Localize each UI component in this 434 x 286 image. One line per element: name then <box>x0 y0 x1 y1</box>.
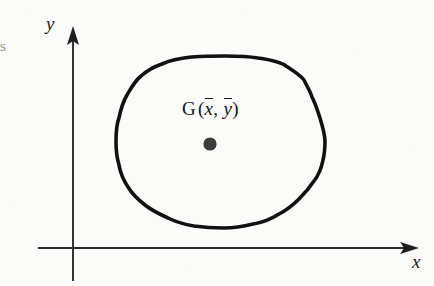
y-bar-symbol: y <box>223 99 232 118</box>
y-axis-label: y <box>46 14 54 33</box>
centroid-label-g: G <box>182 98 196 119</box>
diagram-canvas <box>0 0 434 286</box>
centroid-label-comma: , <box>213 98 218 119</box>
centroid-dot <box>203 137 216 150</box>
x-bar-symbol: x <box>205 99 214 118</box>
x-axis-label: x <box>412 252 420 271</box>
left-edge-text-fragment: s <box>0 38 6 52</box>
centroid-label-open-paren: ( <box>198 98 205 119</box>
x-overbar <box>205 98 213 99</box>
centroid-diagram-figure: G (x, y) y x s <box>0 0 434 286</box>
y-overbar <box>224 98 232 99</box>
centroid-label-close-paren: ) <box>232 98 239 119</box>
lamina-outline-path <box>116 56 325 228</box>
centroid-label: G (x, y) <box>182 99 239 118</box>
